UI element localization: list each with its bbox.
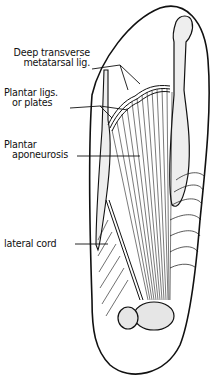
label-line: lateral cord xyxy=(4,239,74,249)
label-lateral-cord: lateral cord xyxy=(4,239,74,249)
calcaneus xyxy=(118,302,174,330)
hallux xyxy=(170,16,193,206)
label-line: or plates xyxy=(4,98,68,108)
little-toe xyxy=(96,70,110,250)
label-line: aponeurosis xyxy=(4,150,76,160)
lateral-hatch xyxy=(98,220,128,316)
aponeurosis-fibres xyxy=(112,88,172,300)
label-plantar-aponeurosis: Plantar aponeurosis xyxy=(4,140,76,160)
label-plantar-ligs: Plantar ligs. or plates xyxy=(4,88,68,108)
label-line: metatarsal lig. xyxy=(4,58,90,68)
label-deep-transverse-metatarsal: Deep transverse metatarsal lig. xyxy=(4,48,90,68)
